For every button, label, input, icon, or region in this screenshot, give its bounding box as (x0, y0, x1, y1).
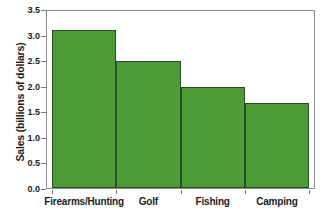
y-axis-tick-label: 0.0 (16, 184, 40, 194)
y-axis-tick-label: 2.0 (16, 82, 40, 92)
x-axis-tick-mark (245, 190, 246, 194)
plot-area (46, 10, 315, 189)
y-axis-tick-mark (41, 87, 46, 88)
y-axis-tick-mark (41, 163, 46, 164)
x-axis-category-label: Firearms/Hunting (44, 196, 124, 207)
bar (116, 61, 180, 188)
x-axis-tick-mark (52, 190, 53, 194)
x-axis-category-label: Fishing (196, 196, 230, 207)
x-axis-tick-mark (309, 190, 310, 194)
y-axis-tick-label: 1.5 (16, 107, 40, 117)
y-axis-tick-mark (41, 36, 46, 37)
x-axis-category-label: Camping (256, 196, 297, 207)
y-axis-tick-label: 0.5 (16, 158, 40, 168)
y-axis-tick-mark (41, 189, 46, 190)
bar-chart: Sales (billions of dollars) 0.00.51.01.5… (0, 0, 327, 222)
x-axis-category-label: Golf (139, 196, 158, 207)
y-axis-tick-mark (41, 10, 46, 11)
bars-layer (47, 11, 314, 188)
y-axis-tick-label: 1.0 (16, 133, 40, 143)
bar (52, 30, 116, 188)
y-axis-tick-labels: 0.00.51.01.52.02.53.03.5 (16, 0, 40, 222)
x-axis-tick-mark (181, 190, 182, 194)
y-axis-tick-mark (41, 112, 46, 113)
bar (245, 103, 309, 188)
bar (181, 87, 245, 188)
x-axis-tick-mark (116, 190, 117, 194)
y-axis-tick-mark (41, 138, 46, 139)
y-axis-tick-label: 3.0 (16, 31, 40, 41)
y-axis-tick-label: 3.5 (16, 5, 40, 15)
y-axis-tick-label: 2.5 (16, 56, 40, 66)
y-axis-tick-mark (41, 61, 46, 62)
